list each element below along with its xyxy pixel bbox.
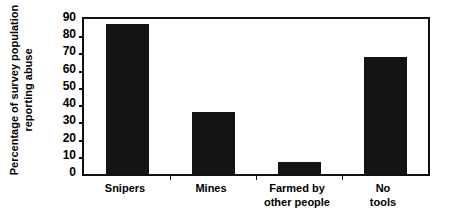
x-tick-label-line: Snipers (82, 181, 168, 195)
y-tick-label: 40 (44, 97, 76, 109)
x-tick-label-line: other people (254, 195, 340, 209)
x-tick-mark (256, 174, 257, 180)
x-tick-label: Farmed byother people (254, 181, 340, 209)
y-tick-label: 10 (44, 149, 76, 161)
plot-area (82, 17, 430, 176)
bar (278, 162, 321, 174)
y-tick-label: 30 (44, 114, 76, 126)
y-axis-tick-labels: 0102030405060708090 (44, 11, 76, 183)
x-tick-label-line: No (340, 181, 426, 195)
y-axis-title-line-1: Percentage of survey population (7, 5, 21, 176)
y-tick-mark (79, 88, 84, 90)
y-tick-label: 50 (44, 80, 76, 92)
y-tick-label: 90 (44, 11, 76, 23)
y-tick-mark (79, 71, 84, 73)
y-tick-mark (79, 105, 84, 107)
x-tick-label-line: tools (340, 195, 426, 209)
x-tick-label: Mines (168, 181, 254, 195)
x-tick-label: Notools (340, 181, 426, 209)
y-tick-label: 80 (44, 28, 76, 40)
y-tick-mark (79, 36, 84, 38)
y-tick-label: 60 (44, 63, 76, 75)
bar (106, 24, 149, 174)
y-axis-title: Percentage of survey population reportin… (0, 0, 42, 180)
y-tick-mark (79, 122, 84, 124)
x-axis-tick-labels: SnipersMinesFarmed byother peopleNotools (82, 181, 430, 219)
bar-chart-figure: Percentage of survey population reportin… (0, 0, 454, 219)
bar (192, 112, 235, 174)
y-tick-label: 70 (44, 45, 76, 57)
x-tick-mark (342, 174, 343, 180)
y-axis-title-text: Percentage of survey population reportin… (7, 5, 35, 176)
bar (364, 57, 407, 174)
y-tick-label: 0 (44, 166, 76, 178)
y-tick-mark (79, 140, 84, 142)
x-tick-label: Snipers (82, 181, 168, 195)
y-tick-label: 20 (44, 132, 76, 144)
plot-inner (84, 19, 428, 174)
y-axis-title-line-2: reporting abuse (21, 5, 35, 176)
y-tick-mark (79, 53, 84, 55)
x-tick-label-line: Mines (168, 181, 254, 195)
y-tick-mark (79, 157, 84, 159)
x-tick-mark (170, 174, 171, 180)
x-tick-label-line: Farmed by (254, 181, 340, 195)
